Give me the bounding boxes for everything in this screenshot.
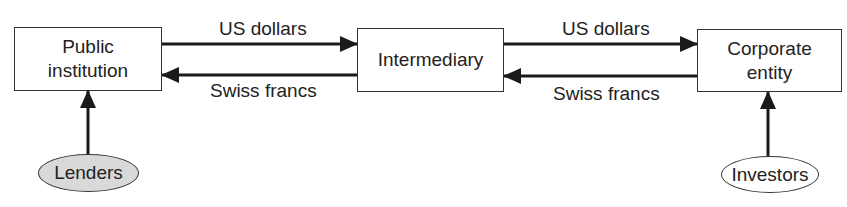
node-corporate-entity: Corporate entity [697,29,842,92]
node-public-institution: Public institution [14,27,162,91]
edge-label-usd-left: US dollars [219,18,307,40]
node-intermediary: Intermediary [357,28,504,92]
edge-label-chf-left: Swiss francs [210,80,317,102]
node-investors: Investors [721,156,819,193]
node-lenders: Lenders [38,154,139,192]
edge-label-usd-right: US dollars [562,18,650,40]
node-corporate-entity-line2: entity [727,61,812,85]
edge-label-chf-right: Swiss francs [553,83,660,105]
node-public-institution-line1: Public [48,35,128,59]
node-public-institution-line2: institution [48,59,128,83]
node-investors-label: Investors [731,164,808,186]
node-corporate-entity-line1: Corporate [727,37,812,61]
node-intermediary-label: Intermediary [378,48,484,72]
node-lenders-label: Lenders [54,162,123,184]
